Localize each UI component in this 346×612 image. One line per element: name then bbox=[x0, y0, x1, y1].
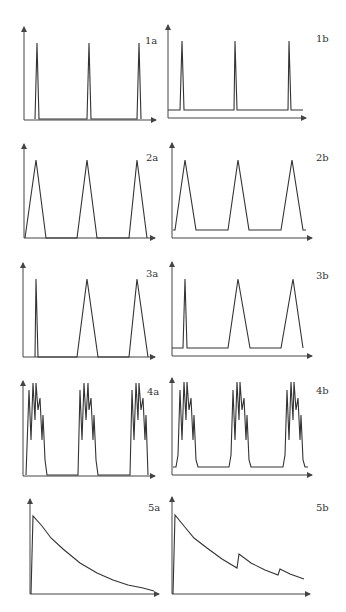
panel-label-4a: 4a bbox=[147, 386, 159, 397]
waveform-3b bbox=[172, 279, 303, 348]
waveform-diagram bbox=[0, 0, 346, 612]
waveform-1a bbox=[35, 43, 141, 119]
panel-label-1a: 1a bbox=[145, 35, 157, 46]
waveform-2b bbox=[173, 160, 306, 230]
waveform-5a bbox=[31, 516, 154, 594]
panel-label-1b: 1b bbox=[316, 33, 329, 44]
axes-5a bbox=[30, 499, 159, 594]
waveform-5b bbox=[173, 515, 304, 594]
panel-label-3a: 3a bbox=[146, 268, 158, 279]
waveform-3a bbox=[35, 279, 148, 357]
panel-label-5b: 5b bbox=[316, 502, 329, 513]
panel-label-2a: 2a bbox=[146, 152, 158, 163]
panel-label-4b: 4b bbox=[316, 385, 329, 396]
axes-3a bbox=[23, 263, 155, 357]
axes-3b bbox=[172, 262, 312, 356]
waveform-4a bbox=[26, 383, 148, 475]
waveform-4b bbox=[173, 382, 308, 467]
panel-label-5a: 5a bbox=[148, 502, 160, 513]
axes-2b bbox=[172, 143, 312, 238]
panel-label-2b: 2b bbox=[316, 152, 329, 163]
panel-label-3b: 3b bbox=[316, 270, 329, 281]
waveform-1b bbox=[168, 41, 303, 110]
axes-5b bbox=[172, 497, 310, 594]
waveform-2a bbox=[25, 160, 147, 238]
